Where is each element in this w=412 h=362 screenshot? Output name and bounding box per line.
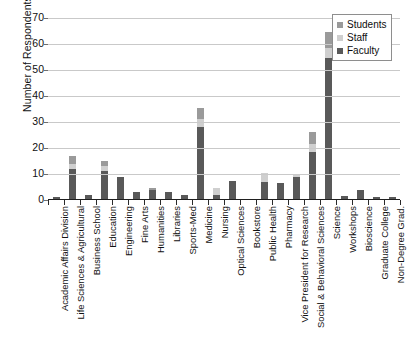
- x-axis-label: Sports-Med: [188, 206, 198, 254]
- x-tick-mark: [128, 200, 129, 205]
- x-tick-mark: [336, 200, 337, 205]
- x-tick-mark: [96, 200, 97, 205]
- bar-segment-faculty: [293, 177, 300, 200]
- y-tick-label: 30: [4, 116, 44, 126]
- x-tick-mark: [352, 200, 353, 205]
- legend-item-students: Students: [337, 18, 386, 31]
- gridline: [48, 148, 400, 149]
- bar-chart: Number of Respondents 010203040506070 Ac…: [0, 0, 412, 362]
- x-tick-mark: [224, 200, 225, 205]
- bar-segment-staff: [197, 119, 204, 127]
- bar-column: [261, 173, 268, 200]
- bar-segment-students: [325, 32, 332, 48]
- bar-segment-faculty: [325, 58, 332, 200]
- x-axis-label: Public Health: [268, 206, 278, 261]
- x-axis-label: Education: [108, 206, 118, 248]
- bar-segment-faculty: [277, 183, 284, 200]
- y-tick-label: 60: [4, 38, 44, 48]
- x-tick-mark: [208, 200, 209, 205]
- x-axis-label: Non-Degree Grad.: [396, 206, 406, 283]
- bar-segment-faculty: [101, 171, 108, 200]
- x-axis-label: Pharmacy: [284, 206, 294, 248]
- x-tick-mark: [320, 200, 321, 205]
- bar-column: [69, 156, 76, 200]
- x-axis-label: Medicine: [204, 206, 214, 244]
- x-tick-mark: [176, 200, 177, 205]
- x-axis-label: Social & Behavioral Sciences: [316, 206, 326, 328]
- x-axis-label: Fine Arts: [140, 206, 150, 243]
- bar-segment-students: [69, 156, 76, 164]
- gridline: [48, 70, 400, 71]
- bar-segment-students: [197, 108, 204, 120]
- x-tick-mark: [368, 200, 369, 205]
- x-tick-mark: [240, 200, 241, 205]
- x-tick-mark: [192, 200, 193, 205]
- legend-label-faculty: Faculty: [347, 45, 379, 56]
- x-tick-mark: [288, 200, 289, 205]
- y-tick-label: 50: [4, 64, 44, 74]
- legend-item-staff: Staff: [337, 31, 386, 44]
- x-axis-labels: Academic Affairs DivisionLife Sciences &…: [48, 206, 400, 358]
- x-tick-mark: [384, 200, 385, 205]
- y-tick-label: 0: [4, 194, 44, 204]
- x-tick-mark: [160, 200, 161, 205]
- chart-legend: Students Staff Faculty: [332, 14, 392, 61]
- legend-label-staff: Staff: [347, 32, 367, 43]
- y-tick-label: 10: [4, 168, 44, 178]
- x-axis-label: Science: [332, 206, 342, 239]
- legend-item-faculty: Faculty: [337, 44, 386, 57]
- legend-swatch-faculty: [337, 48, 343, 54]
- x-tick-mark: [272, 200, 273, 205]
- x-tick-mark: [400, 200, 401, 205]
- gridline: [48, 122, 400, 123]
- y-tick-label: 20: [4, 142, 44, 152]
- bar-segment-faculty: [197, 127, 204, 200]
- bar-segment-students: [309, 132, 316, 144]
- bar-column: [101, 161, 108, 200]
- x-tick-mark: [256, 200, 257, 205]
- x-axis-label: Academic Affairs Division: [60, 206, 70, 311]
- y-tick-label: 70: [4, 12, 44, 22]
- legend-label-students: Students: [347, 19, 386, 30]
- x-axis-label: Bookstore: [252, 206, 262, 248]
- bar-column: [117, 177, 124, 200]
- x-axis-label: Bioscience: [364, 206, 374, 251]
- x-tick-mark: [112, 200, 113, 205]
- legend-swatch-staff: [337, 35, 343, 41]
- x-axis-label: Libraries: [172, 206, 182, 242]
- bar-segment-faculty: [309, 152, 316, 200]
- x-axis-label: Business School: [92, 206, 102, 275]
- x-tick-mark: [80, 200, 81, 205]
- x-axis-label: Vice President for Research: [300, 206, 310, 323]
- y-tick-label: 40: [4, 90, 44, 100]
- x-axis-label: Workshops: [348, 206, 358, 253]
- bar-column: [309, 132, 316, 200]
- x-tick-mark: [304, 200, 305, 205]
- x-axis-label: Nursing: [220, 206, 230, 238]
- x-tick-mark: [48, 200, 49, 205]
- bar-segment-faculty: [117, 177, 124, 200]
- bar-column: [229, 181, 236, 201]
- bar-segment-faculty: [229, 181, 236, 201]
- y-axis-ticks: 010203040506070: [0, 18, 44, 200]
- legend-swatch-students: [337, 22, 343, 28]
- x-axis-label: Engineering: [124, 206, 134, 256]
- bar-segment-staff: [325, 48, 332, 58]
- bar-column: [277, 183, 284, 200]
- gridline: [48, 174, 400, 175]
- x-axis-label: Humanities: [156, 206, 166, 253]
- x-tick-mark: [64, 200, 65, 205]
- bar-segment-faculty: [261, 182, 268, 200]
- x-axis-label: Optical Sciences: [236, 206, 246, 276]
- gridline: [48, 96, 400, 97]
- x-axis-label: Life Sciences & Agricultural: [76, 206, 86, 320]
- x-tick-mark: [144, 200, 145, 205]
- bar-column: [293, 174, 300, 200]
- x-axis-label: Graduate College: [380, 206, 390, 280]
